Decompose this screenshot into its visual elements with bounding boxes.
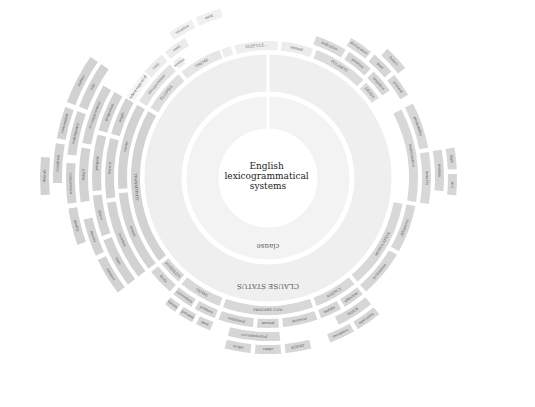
segment-label: mental (262, 321, 275, 325)
ring-label-clause: clause (257, 242, 280, 250)
segment-label: behalf (81, 168, 85, 180)
segment-label: range (263, 347, 274, 351)
segment-label: low (450, 180, 454, 187)
segment-label: PROCESS TYPE (253, 308, 283, 312)
title-line-1: English (249, 161, 284, 171)
segment-label: usuality (425, 171, 429, 186)
segment-label: comparison (68, 173, 73, 195)
segment-label: default (42, 169, 46, 182)
segment-label: median (437, 164, 442, 178)
segment-label: reason (107, 161, 112, 174)
ring-label-clause-status: CLAUSE STATUS (237, 282, 299, 290)
sunburst-diagram: INTERPE...CLEFT.I.E...MOOD TYPETOPICAL T… (0, 0, 535, 407)
title-line-3: systems (250, 181, 287, 191)
title-line-2: lexicogrammatical (224, 171, 308, 181)
